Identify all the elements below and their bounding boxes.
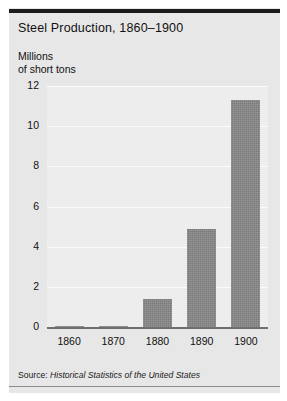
x-axis-tick-label: 1860 [47,335,91,347]
x-axis-line [47,327,268,329]
page-title: Steel Production, 1860–1900 [18,21,183,35]
bar [143,299,172,327]
top-rule-divider [9,9,280,13]
y-axis-tick-label: 8 [13,159,39,171]
x-axis-tick-label: 1880 [135,335,179,347]
bottom-rule-divider [9,386,280,387]
y-axis-title: Millions of short tons [18,50,76,76]
source-title: Historical Statistics of the United Stat… [50,370,200,380]
y-axis-tick-label: 6 [13,200,39,212]
x-axis-tick-label: 1900 [224,335,268,347]
gridline [47,86,268,87]
y-axis-tick-label: 4 [13,240,39,252]
x-axis-tick-label: 1890 [180,335,224,347]
x-axis-tick-label: 1870 [91,335,135,347]
chart-figure: Steel Production, 1860–1900 Millions of … [0,0,287,401]
y-axis-title-line-2: of short tons [18,63,76,76]
y-axis-tick-label: 10 [13,119,39,131]
y-axis-tick-label: 0 [13,320,39,332]
bar [231,100,260,327]
y-axis-title-line-1: Millions [18,50,76,63]
y-axis-tick-label: 2 [13,280,39,292]
bar [187,229,216,327]
y-axis-tick-label: 12 [13,79,39,91]
bar [99,326,128,328]
bar [55,326,84,328]
source-note: Source: Historical Statistics of the Uni… [18,370,200,380]
source-label: Source: [18,370,48,380]
